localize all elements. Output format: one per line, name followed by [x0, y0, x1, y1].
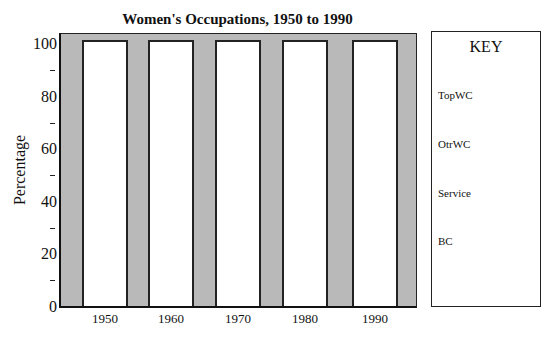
- y-axis-label: Percentage: [11, 135, 29, 205]
- legend-item-topwc: TopWC: [438, 89, 473, 101]
- y-minor-tick: [50, 228, 55, 229]
- legend-key: KEY TopWC OtrWC Service BC: [431, 31, 541, 307]
- y-tick-80: 80: [41, 89, 57, 105]
- x-tick-1990: 1990: [350, 311, 400, 327]
- bar-1990: [352, 40, 398, 306]
- bar-1950: [82, 40, 128, 306]
- legend-item-service: Service: [438, 187, 471, 199]
- x-tick-1950: 1950: [80, 311, 130, 327]
- chart-title: Women's Occupations, 1950 to 1990: [59, 11, 416, 28]
- bar-1960: [148, 40, 194, 306]
- legend-title: KEY: [432, 38, 540, 56]
- x-tick-1980: 1980: [280, 311, 330, 327]
- y-tick-60: 60: [41, 141, 57, 157]
- y-minor-tick: [50, 175, 55, 176]
- plot-area: [59, 33, 417, 308]
- y-tick-20: 20: [41, 246, 57, 262]
- y-tick-0: 0: [49, 299, 57, 315]
- bar-1970: [215, 40, 261, 306]
- y-minor-tick: [50, 70, 55, 71]
- legend-item-otrwc: OtrWC: [438, 138, 470, 150]
- y-minor-tick: [50, 123, 55, 124]
- y-tick-40: 40: [41, 194, 57, 210]
- y-minor-tick: [50, 280, 55, 281]
- y-tick-100: 100: [33, 36, 57, 52]
- x-tick-1960: 1960: [146, 311, 196, 327]
- x-tick-1970: 1970: [213, 311, 263, 327]
- bar-1980: [282, 40, 328, 306]
- legend-item-bc: BC: [438, 235, 453, 247]
